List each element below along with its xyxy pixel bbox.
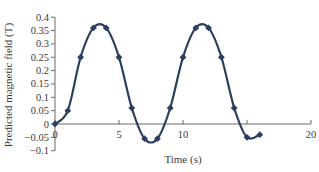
y-tick-label: 0.2: [36, 65, 49, 76]
x-axis-title: Time (s): [164, 153, 202, 166]
y-tick-label: −0.05: [25, 132, 49, 143]
x-tick-label: 20: [306, 129, 317, 140]
diamond-marker: [77, 54, 84, 61]
diamond-marker: [218, 54, 225, 61]
y-tick-label: 0.15: [31, 78, 49, 89]
magnetic-field-line-chart: −0.1−0.0500.050.10.150.20.250.30.350.4 0…: [0, 0, 319, 172]
diamond-marker: [167, 105, 174, 112]
y-tick-label: 0.05: [31, 105, 49, 116]
diamond-marker: [64, 107, 71, 114]
y-axis: −0.1−0.0500.050.10.150.20.250.30.350.4: [25, 12, 55, 157]
y-tick-label: 0.3: [36, 38, 49, 49]
x-tick-label: 0: [52, 129, 57, 140]
y-tick-label: 0: [44, 119, 49, 130]
y-axis-title: Predicted magnetic field (T): [2, 23, 15, 148]
diamond-marker: [180, 54, 187, 61]
x-tick-label: 10: [178, 129, 189, 140]
diamond-marker: [116, 54, 123, 61]
y-tick-label: −0.1: [30, 145, 49, 156]
diamond-marker: [231, 105, 238, 112]
y-tick-label: 0.4: [36, 12, 50, 23]
x-tick-label: 5: [116, 129, 121, 140]
y-tick-label: 0.1: [36, 92, 49, 103]
series-line: [55, 24, 260, 142]
y-tick-label: 0.35: [31, 25, 49, 36]
diamond-marker: [128, 105, 135, 112]
y-tick-label: 0.25: [31, 52, 49, 63]
x-axis: 051020: [52, 120, 316, 140]
